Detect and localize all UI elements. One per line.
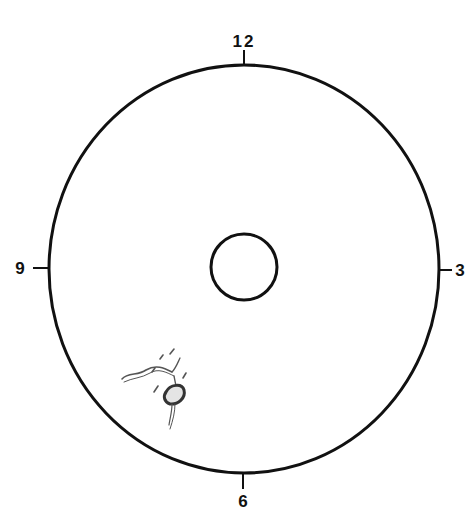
inner-circle: [211, 234, 277, 300]
label-9: 9: [15, 259, 24, 278]
label-3: 3: [455, 261, 464, 280]
lesion-sketch: [122, 349, 186, 429]
label-6: 6: [238, 492, 247, 511]
outer-circle: [49, 65, 439, 473]
label-12: 12: [233, 32, 256, 51]
fundus-diagram: 12 6 9 3: [0, 0, 476, 532]
